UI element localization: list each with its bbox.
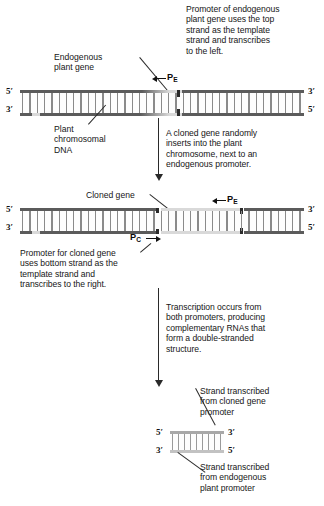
base-pair-rung xyxy=(196,434,197,450)
base-pair-rung xyxy=(278,211,279,231)
insertion-arrow-head-icon xyxy=(155,174,163,181)
base-pair-rung xyxy=(270,93,271,113)
base-pair-rung xyxy=(190,211,191,231)
base-pair-rung xyxy=(153,93,154,113)
plant-chromosomal-dna-label: Plant chromosomal DNA xyxy=(54,124,134,155)
strand-from-cloned-promoter-label: Strand transcribed from cloned gene prom… xyxy=(200,386,318,417)
base-pair-rung xyxy=(117,211,118,231)
panel2-end-5prime-left: 5′ xyxy=(6,204,13,214)
base-pair-rung xyxy=(22,93,23,113)
base-pair-rung xyxy=(226,211,227,231)
base-pair-rung xyxy=(88,211,89,231)
panel2-end-3prime-right: 3′ xyxy=(308,204,315,214)
base-pair-rung xyxy=(183,211,184,231)
base-pair-rung xyxy=(292,93,293,113)
base-pair-rung xyxy=(146,93,147,113)
base-pair-rung xyxy=(110,211,111,231)
base-pair-rung xyxy=(80,211,81,231)
base-pair-rung xyxy=(80,93,81,113)
insertion-note: A cloned gene randomly inserts into the … xyxy=(166,128,318,170)
base-pair-rung xyxy=(219,93,220,113)
base-pair-rung xyxy=(95,93,96,113)
base-pair-rung xyxy=(175,211,176,231)
base-pair-rung xyxy=(263,211,264,231)
panel3-end-5prime-left: 5′ xyxy=(156,427,163,437)
panel2-end-3prime-left: 3′ xyxy=(6,222,13,232)
base-pair-rung xyxy=(95,211,96,231)
base-pair-rung xyxy=(226,93,227,113)
base-pair-rung xyxy=(219,211,220,231)
base-pair-rung xyxy=(220,434,221,450)
base-pair-rung xyxy=(44,211,45,231)
panel3-end-3prime-left: 3′ xyxy=(156,445,163,455)
base-pair-rung xyxy=(102,211,103,231)
base-pair-rung xyxy=(197,93,198,113)
base-pair-rung xyxy=(202,434,203,450)
base-pair-rung xyxy=(51,93,52,113)
base-pair-rung xyxy=(132,93,133,113)
promoter-cloned-label: PC xyxy=(130,232,141,242)
base-pair-rung xyxy=(59,211,60,231)
base-pair-rung xyxy=(59,93,60,113)
base-pair-rung xyxy=(248,211,249,231)
base-pair-rung xyxy=(248,93,249,113)
base-pair-rung xyxy=(190,434,191,450)
base-pair-rung xyxy=(214,434,215,450)
duplex-1-bottom-backbone xyxy=(20,113,304,116)
base-pair-rung xyxy=(44,93,45,113)
cloned-gene-label: Cloned gene xyxy=(86,190,135,200)
base-pair-rung xyxy=(88,93,89,113)
base-pair-rung xyxy=(285,93,286,113)
base-pair-rung xyxy=(212,93,213,113)
pe-arrow-shaft-1 xyxy=(157,78,166,79)
transcription-arrow-shaft xyxy=(158,288,159,384)
base-pair-rung xyxy=(234,93,235,113)
base-pair-rung xyxy=(168,211,169,231)
base-pair-rung xyxy=(29,93,30,113)
base-pair-rung xyxy=(117,93,118,113)
base-pair-rung xyxy=(139,93,140,113)
base-pair-rung xyxy=(153,211,154,231)
base-pair-rung xyxy=(184,434,185,450)
base-pair-rung xyxy=(205,211,206,231)
panel1-end-3prime-left: 3′ xyxy=(6,104,13,114)
cloned-promoter-note: Promoter for cloned gene uses bottom str… xyxy=(20,248,160,290)
base-pair-rung xyxy=(132,211,133,231)
base-pair-rung xyxy=(73,93,74,113)
duplex-3-base-pairs xyxy=(170,434,224,450)
base-pair-rung xyxy=(168,93,169,113)
duplex-1-base-pairs xyxy=(20,93,304,113)
base-pair-rung xyxy=(29,211,30,231)
base-pair-rung xyxy=(146,211,147,231)
base-pair-rung xyxy=(263,93,264,113)
insertion-arrow-shaft xyxy=(158,118,159,176)
diagram-canvas: Promoter of endogenous plant gene uses t… xyxy=(0,0,324,506)
panel1-end-5prime-right: 5′ xyxy=(308,104,315,114)
base-pair-rung xyxy=(102,93,103,113)
base-pair-rung xyxy=(139,211,140,231)
base-pair-rung xyxy=(124,211,125,231)
dna-panel-1 xyxy=(20,90,304,116)
strand-from-endogenous-promoter-label: Strand transcribed from endogenous plant… xyxy=(200,462,320,493)
leader-line-endogenous-gene xyxy=(139,57,168,91)
base-pair-rung xyxy=(73,211,74,231)
transcription-note: Transcription occurs from both promoters… xyxy=(166,302,318,354)
base-pair-rung xyxy=(51,211,52,231)
base-pair-rung xyxy=(178,434,179,450)
base-pair-rung xyxy=(212,211,213,231)
base-pair-rung xyxy=(285,211,286,231)
transcription-arrow-head-icon xyxy=(155,380,163,387)
endogenous-promoter-note: Promoter of endogenous plant gene uses t… xyxy=(186,4,322,56)
base-pair-rung xyxy=(66,93,67,113)
base-pair-rung xyxy=(175,93,176,113)
base-pair-rung xyxy=(241,211,242,231)
endogenous-gene-label: Endogenous plant gene xyxy=(54,52,140,73)
dna-panel-3-dsrna xyxy=(170,431,224,453)
dna-panel-2 xyxy=(20,208,304,234)
base-pair-rung xyxy=(66,211,67,231)
base-pair-rung xyxy=(292,211,293,231)
duplex-2-base-pairs xyxy=(20,211,304,231)
pe-arrow-shaft-2 xyxy=(217,200,226,201)
base-pair-rung xyxy=(37,93,38,113)
base-pair-rung xyxy=(22,211,23,231)
